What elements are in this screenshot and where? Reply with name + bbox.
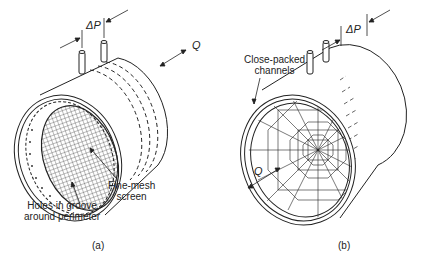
mesh-label-line1: Fine-mesh (108, 180, 155, 191)
leader-line-b (252, 78, 260, 104)
holes-label-line2: around perimeter (24, 211, 100, 222)
pressure-taps-b (307, 41, 329, 75)
mesh-label-line2: screen (108, 191, 155, 202)
pressure-taps-a (79, 41, 107, 75)
flow-label-a: Q (192, 40, 201, 51)
holes-label-a: Holes in groove around perimeter (24, 200, 100, 222)
pressure-label-b: ΔP (346, 24, 361, 35)
channels-label-line1: Close-packed (244, 54, 305, 65)
mesh-label-a: Fine-mesh screen (108, 180, 155, 202)
holes-label-line1: Holes in groove (24, 200, 100, 211)
caption-a: (a) (92, 240, 104, 251)
channels-label-line2: channels (244, 65, 305, 76)
channels-label-b: Close-packed channels (244, 54, 305, 76)
pressure-label-a: ΔP (86, 20, 101, 31)
caption-b: (b) (338, 240, 350, 251)
flow-label-b: Q (254, 166, 263, 177)
